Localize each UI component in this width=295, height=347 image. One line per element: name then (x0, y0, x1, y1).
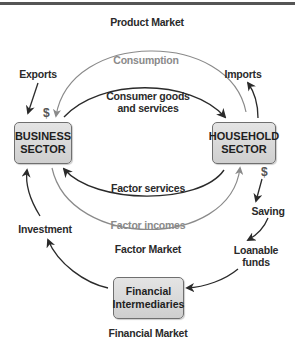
household-sector-node: HOUSEHOLD SECTOR (212, 122, 276, 164)
saving-to-loanable-arrow (248, 218, 268, 240)
money-symbol-business: $ (43, 106, 50, 120)
investment-to-business-arrow (27, 170, 40, 216)
product-market-label: Product Market (110, 16, 184, 28)
saving-arrow (256, 179, 262, 201)
loanable-funds-arrow (187, 269, 238, 288)
financial-market-label: Financial Market (108, 327, 187, 339)
imports-arrow (248, 83, 258, 118)
investment-arrow (48, 240, 108, 288)
consumption-label: Consumption (113, 54, 178, 66)
saving-label: Saving (251, 205, 284, 217)
consumer-goods-label: Consumer goods and services (106, 90, 190, 114)
loanable-funds-label: Loanable funds (234, 244, 279, 268)
factor-market-label: Factor Market (115, 243, 181, 255)
exports-arrow (28, 83, 38, 113)
factor-incomes-label: Factor incomes (111, 219, 186, 231)
imports-label: Imports (224, 68, 261, 80)
exports-label: Exports (19, 68, 57, 80)
money-symbol-household: $ (261, 165, 268, 179)
investment-label: Investment (18, 223, 71, 235)
factor-services-label: Factor services (111, 182, 185, 194)
business-sector-node: BUSINESS SECTOR (14, 122, 72, 164)
financial-intermediaries-node: Financial Intermediaries (113, 277, 184, 319)
